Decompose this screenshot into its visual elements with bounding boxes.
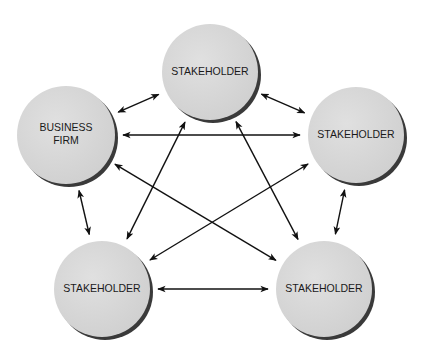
node-label: FIRM [53,134,79,146]
arrow-top-to-bottom-left [127,122,185,239]
arrow-business-firm-to-top [118,94,159,112]
node-label: STAKEHOLDER [317,128,395,140]
node-business-firm: BUSINESSFIRM [17,86,118,187]
arrow-right-to-bottom-left [150,164,308,260]
arrow-top-to-bottom-right [236,122,298,240]
node-label: STAKEHOLDER [285,282,363,294]
node-top: STAKEHOLDER [162,24,261,123]
arrow-top-to-right [261,94,304,113]
arrow-right-to-bottom-right [335,190,344,234]
node-bottom-left: STAKEHOLDER [54,241,153,340]
stakeholder-diagram: STAKEHOLDERBUSINESSFIRMSTAKEHOLDERSTAKEH… [0,0,424,364]
node-bottom-right: STAKEHOLDER [276,241,375,340]
node-label: STAKEHOLDER [171,65,249,77]
node-label: BUSINESS [39,121,92,133]
nodes-layer: STAKEHOLDERBUSINESSFIRMSTAKEHOLDERSTAKEH… [17,24,407,340]
arrow-business-firm-to-bottom-left [79,191,89,235]
node-label: STAKEHOLDER [63,282,141,294]
arrow-business-firm-to-bottom-right [115,164,276,260]
node-right: STAKEHOLDER [308,87,407,186]
